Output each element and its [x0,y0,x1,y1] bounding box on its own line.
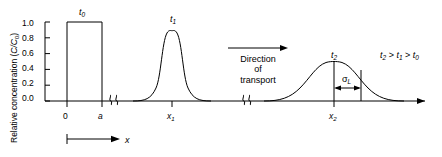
sigma-l-measure-arrow [334,86,361,91]
x-axis-arrowhead [417,98,425,104]
x-measurement-arrow [67,134,120,144]
axis-break-1 [110,95,118,105]
axis-break-2 [243,95,251,105]
direction-arrow [228,45,288,51]
dispersion-figure: Relative concentration (C/C0) 1.0 0.8 0.… [0,0,442,157]
curve-t0-rectangular-pulse [67,22,102,101]
curve-t1-gaussian [133,31,211,101]
plot-canvas [0,0,442,157]
